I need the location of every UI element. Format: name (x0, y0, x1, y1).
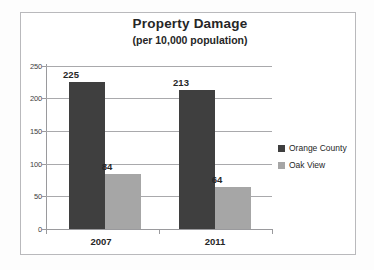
data-label-oak-view-2011: 64 (199, 174, 235, 185)
chart-figure: Property Damage (per 10,000 population) … (0, 0, 374, 270)
data-label-orange-county-2007: 225 (53, 69, 89, 80)
x-tick-start (46, 229, 47, 234)
plot-area (46, 66, 272, 229)
y-axis-label-100: 100 (16, 160, 42, 169)
bar-orange-county-2011 (179, 90, 215, 229)
x-category-label-2007: 2007 (76, 236, 126, 247)
chart-legend: Orange County Oak View (278, 141, 347, 175)
data-label-orange-county-2011: 213 (163, 77, 199, 88)
x-category-label-2011: 2011 (190, 236, 240, 247)
x-tick-middle (159, 229, 160, 234)
bar-oak-view-2007 (105, 174, 141, 229)
bar-oak-view-2011 (215, 187, 251, 229)
y-axis-label-150: 150 (16, 127, 42, 136)
chart-title: Property Damage (40, 16, 340, 32)
data-label-oak-view-2007: 84 (89, 161, 125, 172)
title-block: Property Damage (per 10,000 population) (40, 16, 340, 47)
x-tick-end (272, 229, 273, 234)
y-axis-label-50: 50 (16, 192, 42, 201)
bar-orange-county-2007 (69, 82, 105, 229)
legend-swatch-oak-view (278, 162, 285, 169)
y-axis-label-0: 0 (16, 225, 42, 234)
legend-label-oak-view: Oak View (289, 160, 325, 170)
chart-subtitle: (per 10,000 population) (40, 33, 340, 47)
legend-item-oak-view: Oak View (278, 158, 347, 172)
y-axis-label-250: 250 (16, 62, 42, 71)
legend-item-orange-county: Orange County (278, 141, 347, 155)
legend-label-orange-county: Orange County (289, 143, 347, 153)
gridline-250 (46, 66, 272, 67)
y-axis-label-200: 200 (16, 94, 42, 103)
legend-swatch-orange-county (278, 145, 285, 152)
